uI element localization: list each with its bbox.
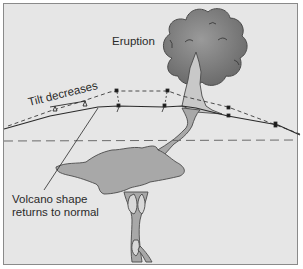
volcano-diagram: Eruption Tilt decreases Volcano shape re…: [0, 0, 303, 269]
magma-roots: [124, 192, 152, 262]
volcano-shape-label: Volcano shape returns to normal: [12, 193, 99, 219]
deflated-ground-surface: [4, 106, 300, 135]
volcano-shape-label-line1: Volcano shape: [12, 193, 99, 206]
reference-level-dashed: [4, 140, 298, 141]
eruption-label: Eruption: [112, 35, 155, 48]
volcano-shape-label-line2: returns to normal: [12, 206, 99, 219]
eruption-cloud: [163, 9, 247, 86]
